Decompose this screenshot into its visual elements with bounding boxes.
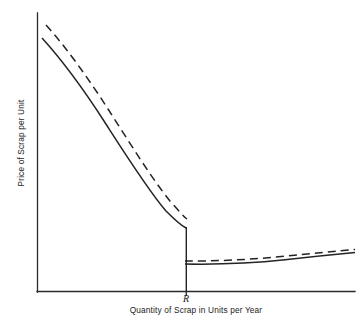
figure-container: Price of Scrap per Unit R Quantity of Sc… bbox=[0, 0, 363, 328]
x-axis-tick-label-r: R bbox=[176, 293, 196, 304]
y-axis-label: Price of Scrap per Unit bbox=[16, 73, 26, 213]
cropped-caption-text bbox=[30, 321, 350, 328]
solid-curve-upper-branch bbox=[42, 38, 186, 228]
dashed-curve-upper-branch bbox=[46, 25, 187, 219]
x-axis-label: Quantity of Scrap in Units per Year bbox=[37, 305, 355, 315]
chart-canvas bbox=[0, 0, 363, 328]
solid-curve-lower-branch bbox=[185, 253, 355, 265]
